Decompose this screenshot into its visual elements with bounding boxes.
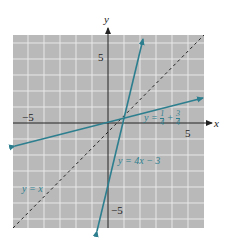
eq-prefix: y =	[144, 112, 160, 123]
eq-plus: +	[164, 112, 176, 123]
y-axis-label: y	[104, 14, 109, 25]
x-axis-label: x	[214, 118, 219, 129]
label-y-equals-x: y = x	[22, 184, 43, 194]
fraction-three-quarters: 34	[176, 110, 180, 127]
y-tick-5: 5	[98, 52, 104, 63]
label-y-equals-4x-minus-3: y = 4x − 3	[118, 156, 160, 166]
label-y-equals-quarter-x: y = 14 + 34	[144, 110, 180, 127]
x-tick-neg5: −5	[22, 112, 34, 123]
denominator: 4	[176, 119, 180, 127]
x-tick-5: 5	[185, 128, 191, 139]
y-tick-neg5: −5	[111, 205, 123, 216]
